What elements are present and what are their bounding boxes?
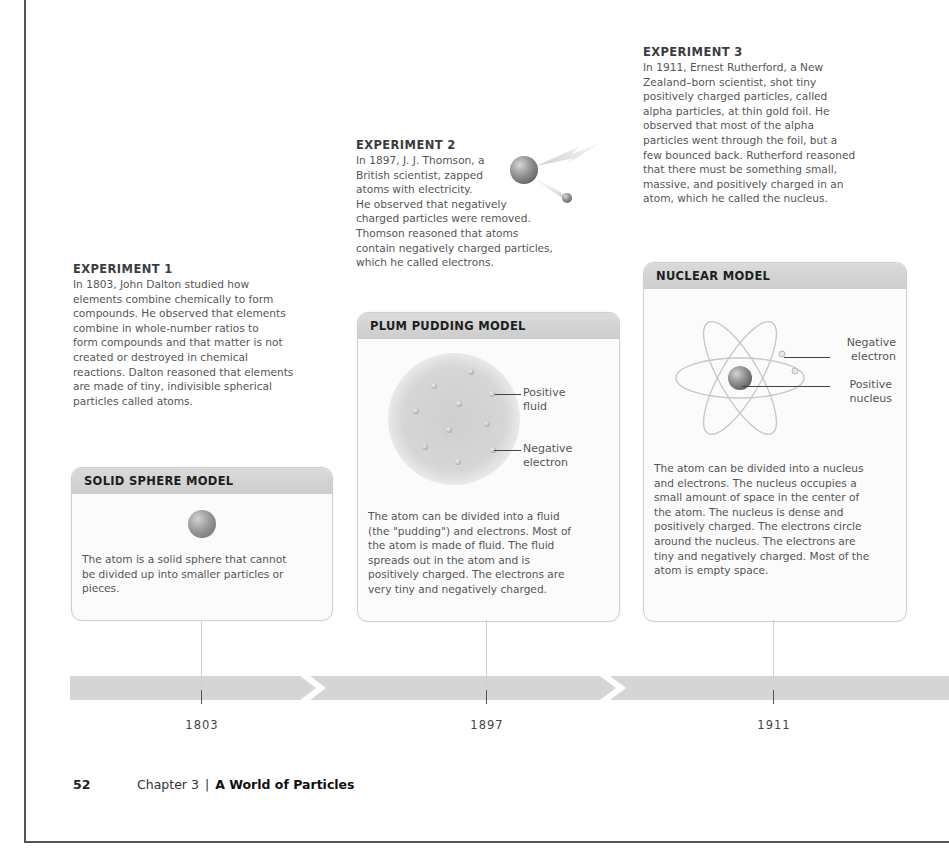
nuclear-model-card: NUCLEAR MODEL Negative electron Positive… [643,262,907,622]
positive-nucleus-label: Positive nucleus [830,378,892,406]
experiment-1-title: EXPERIMENT 1 [73,262,343,277]
experiment-3-title: EXPERIMENT 3 [643,45,943,60]
page-border-bottom [24,841,949,843]
positive-fluid-icon [388,353,520,485]
negative-electron-label: Negative electron [523,442,572,470]
timeline-chevron [600,676,636,700]
electron-icon [484,421,490,427]
solid-sphere-model-text: The atom is a solid sphere that cannot b… [82,552,327,596]
negative-electron-label: Negative electron [830,336,896,364]
nucleus-leader-line [742,386,830,387]
page-border-left [24,0,26,842]
experiment-1: EXPERIMENT 1 In 1803, John Dalton studie… [73,262,343,408]
year-1911: 1911 [744,718,804,732]
electricity-zap-illustration [500,140,610,215]
tick-1803 [201,690,202,704]
connector-line-1803 [201,620,202,690]
solid-sphere-icon [188,510,216,538]
solid-sphere-model-title: SOLID SPHERE MODEL [72,468,332,494]
tick-1897 [486,690,487,704]
connector-line-1911 [773,620,774,690]
electron-leader-line [494,450,521,451]
fluid-leader-line [495,394,521,395]
experiment-3: EXPERIMENT 3 In 1911, Ernest Rutherford,… [643,45,943,206]
nuclear-model-title: NUCLEAR MODEL [644,263,906,289]
electron-icon [422,444,428,450]
page-number: 52 [73,777,137,792]
plum-pudding-model-card: PLUM PUDDING MODEL Positive fluid Negati… [357,312,620,622]
tick-1911 [773,690,774,704]
page-footer: 52Chapter 3|A World of Particles [73,777,355,792]
plum-pudding-model-text: The atom can be divided into a fluid (th… [368,509,613,597]
timeline-chevron [300,676,336,700]
electron-icon [455,459,461,465]
electron-icon [446,427,452,433]
electron-icon [413,408,419,414]
nuclear-model-text: The atom can be divided into a nucleus a… [654,461,904,578]
experiment-1-text: In 1803, John Dalton studied how element… [73,277,343,408]
year-1897: 1897 [457,718,517,732]
solid-sphere-model-card: SOLID SPHERE MODEL The atom is a solid s… [71,467,333,621]
electron-icon [468,369,474,375]
electron-icon [431,383,437,389]
year-1803: 1803 [172,718,232,732]
nuclear-atom-icon [670,303,810,453]
connector-line-1897 [486,620,487,690]
chapter-label: Chapter 3 [137,777,199,792]
plum-pudding-model-title: PLUM PUDDING MODEL [358,313,619,339]
positive-fluid-label: Positive fluid [523,386,565,414]
electron-leader-line [784,357,830,358]
footer-separator: | [205,777,209,792]
electron-icon [456,401,462,407]
experiment-3-text: In 1911, Ernest Rutherford, a New Zealan… [643,60,943,206]
chapter-title: A World of Particles [215,777,354,792]
